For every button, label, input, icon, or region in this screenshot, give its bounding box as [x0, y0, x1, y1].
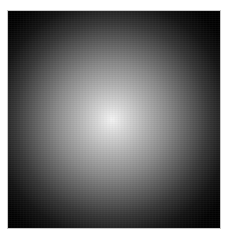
noise-texture [8, 11, 220, 228]
image-frame [7, 10, 221, 229]
